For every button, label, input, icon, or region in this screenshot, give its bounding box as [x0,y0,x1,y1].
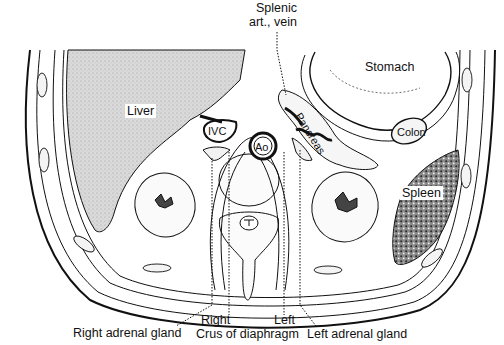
right-adrenal-gland [203,147,230,160]
label-liver: Liver [125,104,156,118]
label-ao: Ao [255,140,268,154]
label-left-crus: Left [274,313,295,327]
label-left-adrenal-gland: Left adrenal gland [307,327,407,341]
abdominal-cross-section-diagram: Splenic art., vein Stomach Liver Pancrea… [0,0,504,345]
label-ivc: IVC [208,124,226,138]
label-right-adrenal-gland: Right adrenal gland [73,326,181,340]
label-crus-of-diaphragm: Crus of diaphragm [196,327,299,341]
vertebra [219,154,279,300]
spleen [393,150,459,264]
anatomy-illustration [0,0,504,345]
label-colon: Colon [397,125,426,139]
label-spleen: Spleen [400,186,443,200]
label-splenic-line1: Splenic [256,1,297,15]
pancreas [278,90,378,170]
label-stomach: Stomach [363,60,416,74]
label-splenic-line2: art., vein [249,15,297,29]
label-right-crus: Right [201,313,230,327]
